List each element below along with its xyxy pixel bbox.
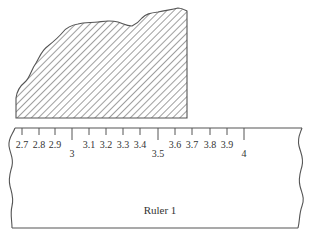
ruler-tick-label: 3.7 <box>186 139 199 150</box>
ruler-tick-label: 3.8 <box>204 139 217 150</box>
ruler-tick-label: 2.9 <box>49 139 62 150</box>
ruler-tick-label: 3 <box>70 148 75 159</box>
ruler-label: Ruler 1 <box>144 204 177 216</box>
hatched-object <box>16 8 187 118</box>
ruler: 2.72.82.933.13.23.33.43.53.63.73.83.94 R… <box>9 128 303 228</box>
ruler-tick-label: 3.3 <box>117 139 130 150</box>
ruler-left-break-edge <box>9 128 15 228</box>
ruler-ticks: 2.72.82.933.13.23.33.43.53.63.73.83.94 <box>16 128 247 159</box>
ruler-tick-label: 2.7 <box>16 139 29 150</box>
ruler-tick-label: 3.4 <box>134 139 147 150</box>
ruler-tick-label: 3.2 <box>100 139 113 150</box>
ruler-right-break-edge <box>298 128 303 228</box>
ruler-tick-label: 3.9 <box>221 139 234 150</box>
ruler-tick-label: 3.5 <box>152 148 165 159</box>
ruler-tick-label: 3.6 <box>169 139 182 150</box>
ruler-tick-label: 3.1 <box>83 139 96 150</box>
ruler-tick-label: 4 <box>242 148 247 159</box>
ruler-tick-label: 2.8 <box>33 139 46 150</box>
measurement-diagram: 2.72.82.933.13.23.33.43.53.63.73.83.94 R… <box>0 0 310 232</box>
